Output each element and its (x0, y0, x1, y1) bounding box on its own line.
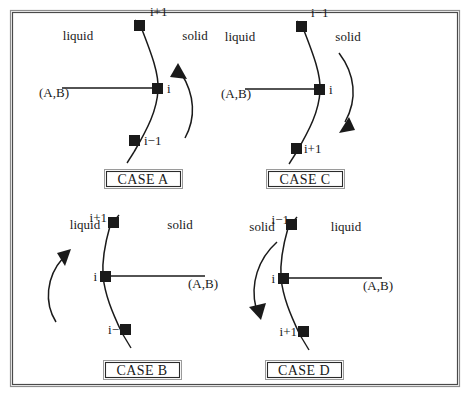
case-d-top-node-label: i−1 (272, 212, 289, 227)
case-c-motion-arrow-line (339, 53, 353, 122)
case-b-ab-label: (A,B) (188, 276, 218, 291)
case-c-node-marker-middle (314, 84, 325, 95)
case-d-ab-label: (A,B) (363, 278, 393, 293)
case-a-middle-node-label: i (167, 81, 171, 96)
case-c-left-phase-label: liquid (225, 29, 256, 44)
case-a-motion-arrow-line (181, 73, 192, 138)
case-a-node-marker-middle (152, 83, 163, 94)
case-c-bottom-node-label: i+1 (304, 141, 321, 156)
case-b-node-marker-middle (100, 271, 111, 282)
case-c-node-marker-bottom (291, 143, 302, 154)
case-a-bottom-tail (127, 152, 134, 163)
case-a-group: liquid solid i+1 i i−1 (A,B) CASE A (39, 4, 208, 189)
case-b-label: CASE B (116, 363, 167, 378)
case-a-label: CASE A (117, 172, 169, 187)
case-b-motion-arrow-line (48, 258, 63, 322)
case-c-label: CASE C (279, 172, 330, 187)
case-d-bottom-tail (300, 335, 309, 350)
case-b-middle-node-label: i (93, 269, 97, 284)
case-b-right-phase-label: solid (167, 217, 193, 232)
case-b-top-node-label: i+1 (90, 210, 107, 225)
case-b-bottom-tail (122, 333, 131, 348)
case-d-right-phase-label: liquid (331, 219, 362, 234)
case-a-top-node-label: i+1 (150, 4, 167, 19)
case-d-node-marker-middle (278, 273, 289, 284)
case-d-label: CASE D (278, 363, 330, 378)
case-c-middle-node-label: i (329, 82, 333, 97)
case-d-node-marker-bottom (298, 326, 309, 337)
case-a-bottom-node-label: i−1 (144, 133, 161, 148)
case-b-node-marker-bottom (120, 324, 131, 335)
case-d-middle-node-label: i (271, 271, 275, 286)
case-a-motion-arrow-head (170, 63, 187, 79)
figure-frame-outer (11, 11, 460, 387)
case-c-right-phase-label: solid (335, 29, 361, 44)
case-a-left-phase-label: liquid (63, 28, 94, 43)
case-b-bottom-node-label: i− (108, 322, 119, 337)
figure-frame-inner (13, 13, 458, 385)
case-a-ab-label: (A,B) (39, 85, 69, 100)
case-a-right-phase-label: solid (182, 28, 208, 43)
case-d-bottom-node-label: i+1 (280, 324, 297, 339)
case-c-top-node-label: i−1 (311, 5, 328, 20)
case-d-motion-arrow-head (249, 303, 266, 320)
case-c-group: liquid solid i−1 i i+1 (A,B) CASE C (221, 5, 361, 189)
case-c-node-marker-top (296, 21, 307, 32)
case-d-group: solid liquid i−1 i i+1 (A,B) CASE D (249, 212, 393, 380)
case-a-node-marker-bottom (129, 135, 140, 146)
case-b-group: liquid solid i+1 i i− (A,B) CASE B (48, 210, 218, 380)
case-b-node-marker-top (108, 217, 119, 228)
case-c-bottom-tail (289, 153, 296, 164)
figure-canvas: liquid solid i+1 i i−1 (A,B) CASE A liqu… (0, 0, 472, 403)
case-c-ab-label: (A,B) (221, 86, 251, 101)
case-a-node-marker-top (134, 20, 145, 31)
